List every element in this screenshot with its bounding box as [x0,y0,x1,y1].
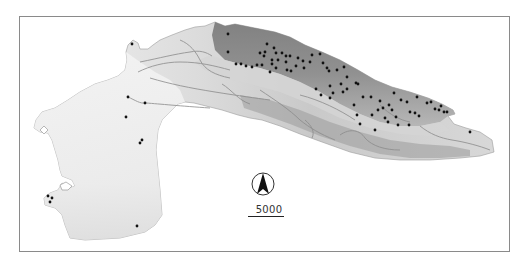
sample-point [379,100,382,103]
sample-point [370,96,373,99]
sample-point [469,131,472,134]
sample-point [275,67,278,70]
sample-point [259,52,262,55]
sample-point [139,142,142,145]
sample-point [286,69,289,72]
sample-point [309,61,312,64]
sample-point [245,65,248,68]
sample-point [391,109,394,112]
sample-point [416,96,419,99]
sample-point [227,33,230,36]
sample-point [285,55,288,58]
map-canvas [0,0,526,268]
sample-point [353,104,356,107]
sample-point [384,117,387,120]
sample-point [426,102,429,105]
sample-point [281,52,284,55]
sample-point [343,66,346,69]
sample-point [393,92,396,95]
sample-point [264,51,267,54]
sample-point [443,111,446,114]
sample-point [263,55,266,58]
sample-point [125,116,128,119]
sample-point [387,121,390,124]
scale-bar [248,216,284,217]
sample-point [346,88,349,91]
sample-point [446,111,449,114]
sample-point [329,97,332,100]
sample-point [51,197,54,200]
sample-point [418,115,421,118]
sample-point [382,107,385,110]
sample-point [336,69,339,72]
sample-point [406,101,409,104]
sample-point [136,225,139,228]
sample-point [430,101,433,104]
sample-point [256,64,259,67]
sample-point [346,76,349,79]
sample-point [277,59,280,62]
sample-point [141,139,144,142]
sample-point [261,64,264,67]
sample-point [240,63,243,66]
sample-point [408,124,411,127]
sample-point [266,43,269,46]
sample-point [332,92,335,95]
sample-point [49,201,52,204]
sample-point [409,111,412,114]
lowland-region [34,52,185,240]
sample-point [395,116,398,119]
sample-point [289,55,292,58]
sample-point [275,52,278,55]
sample-point [315,88,318,91]
sample-point [340,83,343,86]
sample-point [388,104,391,107]
scale-bar-label: 5000 [250,204,288,215]
sample-point [271,59,274,62]
sample-point [357,83,360,86]
sample-point [342,91,345,94]
sample-point [371,114,374,117]
sample-point [285,61,288,64]
sample-point [297,57,300,60]
sample-point [127,96,130,99]
sample-point [271,63,274,66]
sample-point [144,102,147,105]
sample-point [434,108,437,111]
sample-point [302,60,305,63]
sample-point [295,65,298,68]
sample-point [322,62,325,65]
sample-point [440,105,443,108]
sample-point [397,124,400,127]
sample-point [273,47,276,50]
sample-point [251,66,254,69]
sample-point [438,109,441,112]
sample-point [326,67,329,70]
north-arrow-icon [252,173,274,195]
sample-point [362,96,365,99]
sample-point [359,123,362,126]
sample-point [374,129,377,132]
sample-point [290,70,293,73]
sample-point [227,51,230,54]
sample-point [414,112,417,115]
sample-point [320,94,323,97]
sample-point [131,43,134,46]
sample-point [377,109,380,112]
sample-point [303,67,306,70]
sample-point [269,71,272,74]
sample-point [311,54,314,57]
sample-point [400,99,403,102]
sample-point [329,85,332,88]
sample-point [328,70,331,73]
sample-point [235,63,238,66]
sample-point [356,114,359,117]
sample-point [319,53,322,56]
sample-point [47,195,50,198]
